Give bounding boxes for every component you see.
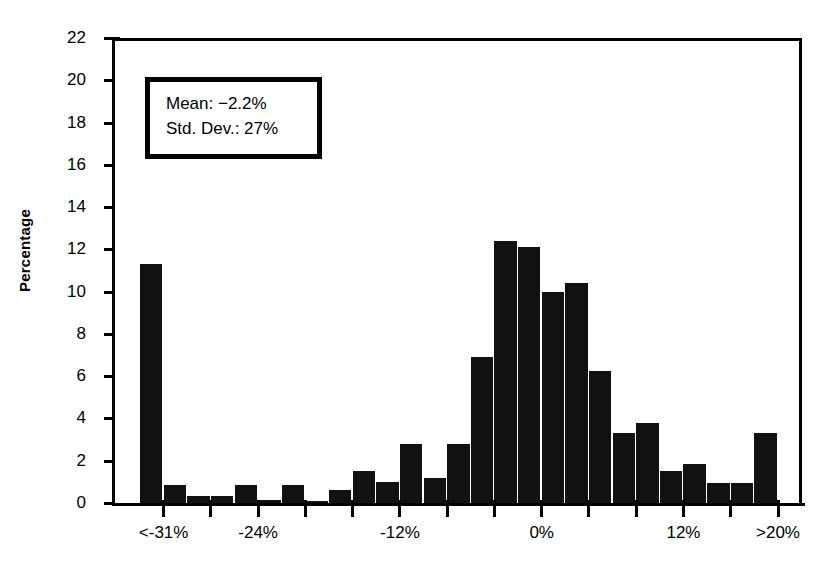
x-axis-tick-label: -12% <box>340 523 460 543</box>
x-axis-tick-label: 0% <box>482 523 602 543</box>
y-axis-tick-label: 14 <box>46 198 86 215</box>
stats-annotation-box: Mean: −2.2% Std. Dev.: 27% <box>145 77 322 159</box>
histogram-bar <box>211 496 233 503</box>
y-axis-tick-label: 16 <box>46 156 86 173</box>
y-axis-tick-label: 4 <box>46 409 86 426</box>
x-axis-tick-mark <box>446 500 449 517</box>
histogram-bar <box>494 241 516 503</box>
histogram-bar <box>187 496 209 503</box>
y-axis-tick-label: 10 <box>46 283 86 300</box>
x-axis-tick-mark <box>493 500 496 517</box>
stats-mean-label: Mean: −2.2% <box>166 91 317 116</box>
histogram-bar <box>447 444 469 503</box>
x-axis-tick-mark <box>398 500 401 517</box>
y-axis-tick-label: 2 <box>46 452 86 469</box>
y-axis-tick-label: 18 <box>46 114 86 131</box>
histogram-bar <box>683 464 705 503</box>
y-axis-tick-label: 20 <box>46 71 86 88</box>
histogram-figure: Percentage 0246810121416182022 <-31%-24%… <box>0 0 826 573</box>
histogram-bar <box>329 490 351 503</box>
histogram-bar <box>518 247 540 503</box>
x-axis-tick-label: >20% <box>718 523 826 543</box>
y-axis-tick-label: 8 <box>46 325 86 342</box>
x-axis-tick-mark <box>257 500 260 517</box>
histogram-bar <box>258 500 280 503</box>
histogram-bar <box>542 292 564 503</box>
stats-std-dev-label: Std. Dev.: 27% <box>166 116 317 141</box>
x-axis-tick-label: -24% <box>198 523 318 543</box>
histogram-bar <box>424 478 446 503</box>
x-axis-tick-mark <box>729 500 732 517</box>
histogram-bar <box>140 264 162 503</box>
y-axis-tick-label: 22 <box>46 29 86 46</box>
x-axis-tick-mark <box>304 500 307 517</box>
histogram-bar <box>565 283 587 503</box>
histogram-bar <box>164 485 186 503</box>
histogram-bar <box>613 433 635 503</box>
histogram-bar <box>305 501 327 503</box>
histogram-bar <box>400 444 422 503</box>
histogram-bar <box>636 423 658 503</box>
histogram-bar <box>471 357 493 503</box>
x-axis-tick-mark <box>587 500 590 517</box>
y-axis-tick-label: 0 <box>46 494 86 511</box>
x-axis-line <box>112 503 805 506</box>
x-axis-tick-mark <box>209 500 212 517</box>
histogram-bar <box>731 483 753 503</box>
x-axis-tick-mark <box>540 500 543 517</box>
x-axis-tick-mark <box>351 500 354 517</box>
histogram-bar <box>707 483 729 503</box>
x-axis-tick-mark <box>777 500 780 517</box>
y-axis-tick-labels: 0246810121416182022 <box>20 0 86 573</box>
y-axis-tick-label: 12 <box>46 240 86 257</box>
histogram-bar <box>353 471 375 503</box>
x-axis-tick-mark <box>635 500 638 517</box>
histogram-bar <box>754 433 776 503</box>
histogram-bar <box>282 485 304 503</box>
x-axis-tick-mark <box>682 500 685 517</box>
y-axis-tick-label: 6 <box>46 367 86 384</box>
histogram-bar <box>376 482 398 503</box>
histogram-bar <box>235 485 257 503</box>
histogram-bar <box>589 371 611 503</box>
histogram-bar <box>660 471 682 503</box>
x-axis-tick-mark <box>162 500 165 517</box>
